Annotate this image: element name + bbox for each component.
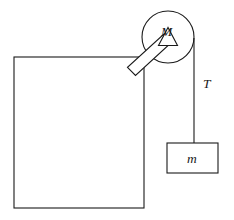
label-pulley-mass: M	[160, 24, 173, 39]
large-block-rect	[14, 57, 144, 208]
pulley-physics-diagram: M T m	[0, 0, 234, 220]
label-tension: T	[203, 76, 212, 91]
diagram-canvas: M T m	[0, 0, 234, 220]
label-hanging-mass: m	[187, 151, 197, 166]
